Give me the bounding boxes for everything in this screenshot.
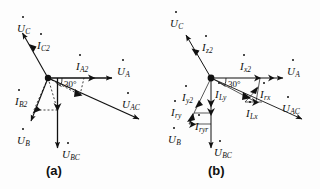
overdot-b-irx (263, 82, 265, 84)
label-b-ub: UB (168, 130, 181, 147)
overdot-b-iry (174, 100, 176, 102)
label-a-ub: UB (17, 131, 30, 148)
overdot-a-uc (22, 16, 24, 18)
overdot-a-ic2 (40, 33, 42, 35)
phasor-a-ib2 (31, 78, 48, 121)
overdot-b-iz2 (205, 35, 207, 37)
label-b-iz2: Iz2 (202, 38, 213, 55)
label-a-ubc: UBC (62, 145, 80, 162)
label-b-irx: Irx (260, 85, 270, 102)
phasor-diagram-canvas (0, 0, 320, 189)
overdot-a-ib2 (18, 89, 20, 91)
angle-label-b: 30° (228, 79, 241, 89)
phasor-figure: UC IC2 IA2 UA UAC IB2 UB UBC 30° (a) UC … (0, 0, 320, 189)
overdot-b-uac (287, 96, 289, 98)
label-b-ubc: UBC (214, 143, 232, 160)
label-b-ily: ILy (215, 85, 226, 102)
label-b-iry: Iry (171, 103, 181, 120)
label-b-ilx: ILx (246, 104, 257, 121)
label-a-ia2: IA2 (76, 57, 88, 74)
phasor-b-x-head-2 (250, 87, 258, 95)
label-b-iy2: Iy2 (182, 88, 193, 105)
label-b-ua: UA (287, 62, 300, 79)
label-b-ix2: Ix2 (240, 57, 251, 74)
overdot-b-ily (218, 82, 220, 84)
label-b-iryr: Iryr (195, 117, 208, 134)
phasor-b-iz2-head (192, 49, 200, 57)
label-a-ic2: IC2 (37, 36, 50, 53)
panel-b-y-line-1 (194, 78, 211, 113)
overdot-b-ua (292, 59, 294, 61)
overdot-b-iy2 (185, 85, 187, 87)
overdot-b-ub (173, 127, 175, 129)
label-b-uac: UAC (282, 99, 300, 116)
panel-a-dash-1 (48, 78, 58, 110)
label-a-ua: UA (117, 62, 130, 79)
overdot-a-ua (122, 59, 124, 61)
overdot-a-ubc (67, 142, 69, 144)
caption-panel-a: (a) (46, 163, 62, 178)
phasor-b-iry-head (187, 113, 195, 122)
phasor-b-iy2-head (195, 100, 203, 108)
overdot-a-uac (127, 92, 129, 94)
angle-label-a: 30° (64, 79, 77, 89)
label-a-uc: UC (17, 19, 30, 36)
overdot-b-ix2 (243, 54, 245, 56)
panel-a-dash-3 (34, 78, 48, 110)
overdot-b-iryr (198, 114, 200, 116)
overdot-b-uc (175, 11, 177, 13)
label-b-uc: UC (170, 14, 183, 31)
overdot-a-ub (22, 128, 24, 130)
overdot-b-ilx (249, 101, 251, 103)
caption-panel-b: (b) (208, 163, 225, 178)
label-a-uac: UAC (122, 95, 140, 112)
label-a-ib2: IB2 (15, 92, 27, 109)
overdot-a-ia2 (79, 54, 81, 56)
overdot-b-ubc (219, 140, 221, 142)
